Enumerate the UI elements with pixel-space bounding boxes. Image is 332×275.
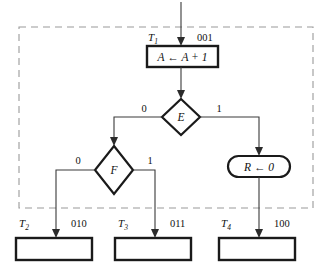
svg-text:T3: T3 [118,217,128,232]
decision-e-true-label: 1 [216,103,221,114]
connector-f-true-to-t3 [133,170,159,238]
state-t1-code: 001 [197,32,213,43]
state-box-t3 [115,238,191,260]
entry-arrow [177,2,185,46]
state-t3-code: 011 [170,218,185,229]
decision-diamond-e: E [162,99,200,135]
state-box-t2 [16,238,92,260]
decision-diamond-f: F [95,146,133,194]
state-t4-subscript: 4 [227,223,231,232]
connector-e-false-to-f [110,117,162,146]
state-t1-subscript: 1 [154,37,158,46]
state-t2-code: 010 [71,218,87,229]
operation-box-a-text: A ← A + 1 [157,51,208,63]
state-box-t4 [219,238,295,260]
connector-e-true-to-r [200,117,263,156]
operation-oval-r-text: R ← 0 [243,161,274,173]
decision-e-false-label: 0 [141,103,146,114]
decision-f-condition: F [109,164,118,176]
state-t2-subscript: 2 [25,223,29,232]
flowchart-canvas: T1 001 A ← A + 1 E 0 1 [0,0,332,275]
connector-box-to-e [177,67,185,99]
decision-f-false-label: 0 [75,155,80,166]
svg-text:T4: T4 [221,217,231,232]
state-t4-code: 100 [274,218,290,229]
decision-f-true-label: 1 [147,155,152,166]
svg-text:T1: T1 [148,31,158,46]
operation-box-a: A ← A + 1 [147,46,218,67]
flowchart-diagram: T1 001 A ← A + 1 E 0 1 [0,0,332,275]
decision-e-condition: E [176,111,184,123]
svg-text:T2: T2 [19,217,29,232]
operation-oval-r: R ← 0 [228,156,290,177]
state-t3-subscript: 3 [123,223,128,232]
